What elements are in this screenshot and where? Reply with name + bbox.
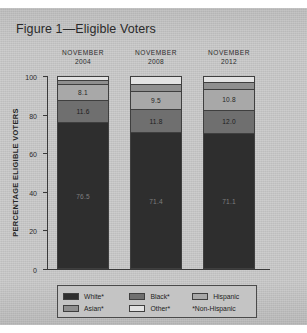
bar-segment-value: 8.1	[78, 89, 88, 96]
y-axis-tick-label: 80	[29, 112, 37, 119]
bar-segment-value: 11.6	[76, 108, 89, 115]
bar-november-2012: 10.812.071.1	[203, 76, 255, 269]
legend-swatch-asian-icon	[63, 305, 79, 312]
bar-segment-black: 12.0	[204, 110, 254, 133]
bar-segment-value: 71.1	[222, 198, 236, 205]
bar-segment-hispanic: 9.5	[131, 91, 181, 109]
bar-segment-white: 76.5	[58, 122, 108, 269]
page-title: Figure 1—Eligible Voters	[16, 22, 156, 36]
bar-segment-hispanic: 8.1	[58, 84, 108, 100]
legend-item-other: Other*	[129, 305, 192, 312]
bar-november-2008: 9.511.871.4	[130, 76, 182, 269]
legend-label-asian: Asian*	[84, 305, 104, 312]
legend-label-other: Other*	[150, 305, 170, 312]
legend-item-black: Black*	[129, 293, 192, 300]
bar-segment-asian	[204, 82, 254, 89]
column-header-year: 2012	[186, 58, 272, 67]
legend-swatch-white-icon	[63, 293, 79, 300]
y-axis-title-text: PERCENTAGE ELIGIBLE VOTERS	[11, 108, 20, 236]
legend: White* Black* Hispanic Asian* Other* *No…	[57, 285, 257, 318]
bar-segment-value: 12.0	[222, 118, 236, 125]
y-axis-tick: 0	[43, 269, 48, 270]
bar-segment-black: 11.6	[58, 100, 108, 122]
bar-segment-value: 76.5	[76, 193, 90, 200]
legend-label-hispanic: Hispanic	[213, 293, 239, 300]
bar-november-2004: 8.111.676.5	[57, 76, 109, 269]
y-axis-tick-label: 20	[29, 228, 37, 235]
column-header-2012: NOVEMBER 2012	[186, 49, 272, 66]
y-axis-tick-label: 60	[29, 151, 37, 158]
column-header-month: NOVEMBER	[186, 49, 272, 58]
legend-item-asian: Asian*	[63, 305, 129, 312]
legend-row-1: White* Black* Hispanic	[63, 290, 251, 302]
legend-item-white: White*	[63, 293, 129, 300]
y-axis-tick-label: 40	[29, 189, 37, 196]
bar-segment-value: 71.4	[149, 198, 163, 205]
legend-swatch-hispanic-icon	[192, 293, 208, 300]
legend-footnote-text: *Non-Hispanic	[192, 305, 235, 312]
legend-label-white: White*	[84, 293, 104, 300]
legend-label-black: Black*	[150, 293, 169, 300]
bar-segment-value: 9.5	[151, 97, 161, 104]
legend-swatch-other-icon	[129, 305, 145, 312]
legend-row-2: Asian* Other* *Non-Hispanic	[63, 302, 251, 314]
y-axis-tick-label: 100	[25, 74, 37, 81]
legend-footnote: *Non-Hispanic	[192, 305, 251, 312]
bar-segment-white: 71.1	[204, 133, 254, 269]
bar-segment-black: 11.8	[131, 109, 181, 132]
y-axis-tick-label: 0	[33, 267, 37, 274]
legend-swatch-black-icon	[129, 293, 145, 300]
bar-segment-asian	[131, 84, 181, 91]
bar-segment-value: 10.8	[222, 96, 236, 103]
y-axis-title: PERCENTAGE ELIGIBLE VOTERS	[9, 76, 21, 269]
plot-area: 8.111.676.59.511.871.410.812.071.1	[47, 76, 269, 269]
figure-page: Figure 1—Eligible Voters NOVEMBER 2004 N…	[0, 8, 307, 325]
legend-item-hispanic: Hispanic	[192, 293, 251, 300]
bar-segment-value: 11.8	[149, 118, 162, 125]
bar-segment-hispanic: 10.8	[204, 89, 254, 110]
bar-segment-white: 71.4	[131, 132, 181, 269]
bar-segment-other	[131, 77, 181, 84]
